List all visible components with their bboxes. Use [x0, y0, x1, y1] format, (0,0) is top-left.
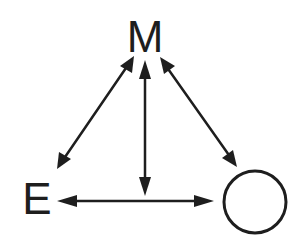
arrow-m-circle — [160, 57, 237, 167]
arrow-e-circle — [57, 195, 214, 207]
node-label-m: M — [127, 12, 164, 61]
arrow-m-e — [57, 56, 134, 169]
node-label-e: E — [22, 174, 51, 223]
arrow-m-vertical — [139, 60, 151, 196]
diagram-canvas: M E — [0, 0, 300, 237]
node-circle — [224, 171, 286, 233]
